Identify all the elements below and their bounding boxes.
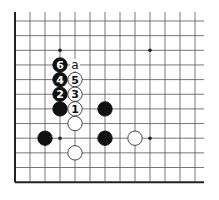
black-stone-icon [98, 102, 112, 116]
black-stone-icon [38, 131, 52, 145]
black-stone [38, 131, 52, 145]
move-number-label: 6 [56, 59, 64, 72]
black-stone-6: 6 [53, 58, 67, 72]
white-stone [68, 146, 82, 160]
white-stone [68, 116, 82, 130]
move-number-label: 1 [71, 103, 79, 116]
point-marker-label: a [71, 58, 78, 72]
star-point [148, 136, 152, 140]
white-stone-3: 3 [68, 87, 82, 101]
star-point [58, 49, 62, 53]
black-stone [53, 102, 67, 116]
move-number-label: 3 [71, 88, 79, 101]
board-grid [15, 12, 204, 182]
star-point [58, 136, 62, 140]
star-point [148, 49, 152, 53]
black-stone-icon [98, 131, 112, 145]
white-stone [128, 131, 142, 145]
move-number-label: 2 [56, 88, 64, 101]
white-stone-1: 1 [68, 102, 82, 116]
white-stone-icon [128, 131, 142, 145]
move-number-label: 4 [56, 74, 64, 87]
black-stone [98, 102, 112, 116]
white-stone-icon [68, 116, 82, 130]
black-stone-icon [53, 102, 67, 116]
white-stone-icon [68, 146, 82, 160]
black-stone [98, 131, 112, 145]
move-number-label: 5 [71, 74, 79, 87]
white-stone-5: 5 [68, 72, 82, 86]
black-stone-2: 2 [53, 87, 67, 101]
black-stone-4: 4 [53, 72, 67, 86]
go-board-diagram: 645231 a [0, 0, 219, 200]
markers-layer: a [70, 58, 80, 72]
